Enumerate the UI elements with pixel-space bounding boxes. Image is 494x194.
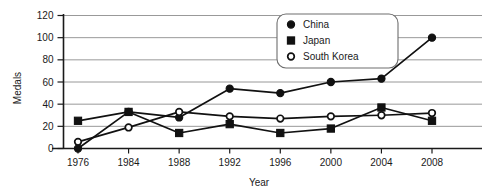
data-point-japan [226,121,233,128]
data-point-south-korea [277,115,284,122]
data-point-south-korea [429,110,436,117]
chart-legend: ChinaJapanSouth Korea [277,14,398,68]
data-point-south-korea [176,109,183,116]
x-tick-label: 1976 [67,157,90,168]
x-tick-label: 1992 [219,157,242,168]
legend-label-japan: Japan [303,35,330,46]
data-point-china [378,75,385,82]
legend-label-south-korea: South Korea [303,51,359,62]
chart-canvas: 020406080100120 197619841988199219962000… [0,0,494,194]
y-tick-label: 60 [42,77,54,88]
data-point-china [226,85,233,92]
medals-line-chart: 020406080100120 197619841988199219962000… [0,0,494,194]
data-point-china [277,89,284,96]
data-point-south-korea [125,124,132,131]
data-point-japan [428,117,435,124]
y-tick-label: 80 [42,54,54,65]
data-point-china [428,34,435,41]
data-point-south-korea [378,112,385,119]
data-point-japan [125,108,132,115]
data-point-china [327,78,334,85]
y-tick-label: 100 [37,32,54,43]
y-tick-label: 40 [42,99,54,110]
legend-label-china: China [303,19,330,30]
data-point-south-korea [328,113,335,120]
legend-marker-china [287,21,294,28]
y-tick-label-group: 020406080100120 [37,10,54,154]
data-point-japan [327,125,334,132]
x-tick-label: 1984 [117,157,140,168]
x-tick-label-group: 19761984198819921996200020042008 [67,157,444,168]
data-point-japan [74,117,81,124]
data-point-japan [277,129,284,136]
legend-marker-japan [287,37,294,44]
legend-marker-south-korea [288,53,295,60]
data-point-south-korea [75,139,82,146]
x-axis-title: Year [249,177,270,188]
y-tick-mark-group [58,16,64,149]
data-point-japan [378,104,385,111]
y-tick-label: 20 [42,121,54,132]
x-tick-label: 1988 [168,157,191,168]
x-tick-label: 2008 [421,157,444,168]
data-point-japan [176,129,183,136]
x-tick-label: 2000 [320,157,343,168]
y-axis-title: Medals [12,72,23,104]
data-point-south-korea [226,113,233,120]
x-tick-label: 2004 [370,157,393,168]
y-tick-label: 120 [37,10,54,21]
x-tick-label: 1996 [269,157,292,168]
